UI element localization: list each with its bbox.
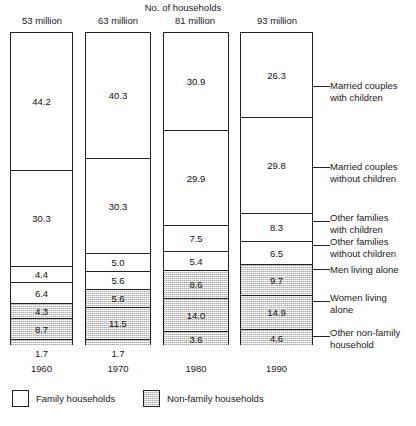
legend-swatch-icon-family	[12, 390, 29, 407]
legend-label-nonfamily: Non-family households	[167, 393, 264, 405]
segment-men-living-alone-1990: 9.7	[241, 265, 312, 296]
callout-line-married-without-children	[313, 167, 330, 168]
segment-value: 4.6	[270, 333, 283, 344]
segment-women-living-alone-1980: 14.0	[164, 299, 228, 332]
segment-value: 8.6	[189, 279, 202, 290]
segment-women-living-alone-1990: 14.9	[241, 296, 312, 330]
segment-married-with-children-1960: 44.2	[11, 33, 72, 171]
callout-label-married-without-children: Married couples without children	[330, 161, 398, 184]
segment-men-living-alone-1980: 8.6	[164, 271, 228, 299]
segment-value: 8.3	[270, 222, 283, 233]
segment-value: 6.5	[270, 248, 283, 259]
segment-value: 30.3	[109, 201, 128, 212]
callout-line-1: Other families	[330, 236, 396, 248]
callout-line-2: with children	[330, 92, 398, 104]
segment-value: 44.2	[32, 96, 51, 107]
legend-item-family-households: Family households	[12, 390, 115, 407]
segment-other-families-with-children-1990: 8.3	[241, 214, 312, 242]
callout-line-1: Married couples	[330, 161, 398, 173]
callout-line-2: household	[330, 339, 400, 351]
callout-line-1: Other families	[330, 212, 389, 224]
callout-label-other-nonfamily: Other non-family household	[330, 327, 400, 350]
segment-value: 14.9	[267, 307, 286, 318]
segment-other-families-with-children-1980: 7.5	[164, 226, 228, 252]
callout-label-men-living-alone: Men living alone	[330, 264, 399, 276]
callout-label-women-living-alone: Women living alone	[330, 292, 387, 315]
segment-other-families-with-children-1960: 4.4	[11, 267, 72, 283]
outside-value-label-1960: 1.7	[10, 348, 73, 360]
callout-line-other-families-without-children	[313, 245, 330, 246]
callout-line-other-families-with-children	[313, 221, 330, 222]
legend-label-family: Family households	[36, 393, 115, 405]
segment-other-families-without-children-1960: 6.4	[11, 283, 72, 304]
legend-swatch-icon-nonfamily	[143, 390, 160, 407]
segment-value: 11.5	[109, 318, 127, 329]
segment-other-families-without-children-1980: 5.4	[164, 252, 228, 271]
segment-other-nonfamily-1980: 3.6	[164, 332, 228, 346]
segment-other-nonfamily-1960	[11, 340, 72, 346]
callout-line-2: without children	[330, 173, 398, 185]
legend-item-nonfamily-households: Non-family households	[143, 390, 264, 407]
callout-line-2: without children	[330, 248, 396, 260]
segment-other-families-without-children-1970: 5.6	[86, 272, 150, 290]
household-composition-chart: No. of households 53 million 63 million …	[0, 0, 416, 426]
segment-other-families-without-children-1990: 6.5	[241, 242, 312, 265]
callout-line-men-living-alone	[313, 269, 330, 270]
callout-label-other-families-with-children: Other families with children	[330, 212, 389, 235]
segment-other-nonfamily-1970	[86, 340, 150, 346]
column-total-1980: 81 million	[161, 15, 229, 27]
segment-married-with-children-1970: 40.3	[86, 33, 150, 159]
segment-married-without-children-1970: 30.3	[86, 159, 150, 254]
callout-label-other-families-without-children: Other families without children	[330, 236, 396, 259]
axis-label-1990: 1990	[240, 363, 313, 375]
segment-women-living-alone-1960: 8.7	[11, 319, 72, 340]
segment-value: 5.4	[189, 256, 202, 267]
segment-value: 30.3	[32, 213, 51, 224]
segment-married-without-children-1960: 30.3	[11, 171, 72, 267]
segment-men-living-alone-1960: 4.3	[11, 304, 72, 319]
column-total-1960: 53 million	[8, 15, 76, 27]
stacked-bar-1990: 26.3 29.8 8.3 6.5 9.7 14.9 4.6	[240, 32, 313, 345]
segment-value: 4.4	[35, 269, 48, 280]
segment-married-without-children-1980: 29.9	[164, 131, 228, 226]
segment-married-with-children-1980: 30.9	[164, 33, 228, 131]
callout-line-married-with-children	[313, 86, 330, 87]
segment-value: 26.3	[267, 70, 286, 81]
callout-line-other-nonfamily	[313, 336, 330, 337]
stacked-bar-1980: 30.9 29.9 7.5 5.4 8.6 14.0 3.6	[163, 32, 229, 345]
segment-value: 5.6	[111, 293, 124, 304]
segment-value: 40.3	[109, 90, 128, 101]
segment-value: 29.8	[267, 160, 286, 171]
segment-value: 7.5	[189, 233, 202, 244]
callout-line-1: Other non-family	[330, 327, 400, 339]
segment-men-living-alone-1970: 5.6	[86, 290, 150, 308]
chart-title: No. of households	[118, 2, 248, 14]
segment-value: 4.3	[35, 306, 48, 317]
axis-label-1970: 1970	[85, 363, 151, 375]
segment-other-nonfamily-1990: 4.6	[241, 330, 312, 346]
segment-married-without-children-1990: 29.8	[241, 118, 312, 214]
segment-other-families-with-children-1970: 5.0	[86, 254, 150, 272]
segment-value: 5.6	[111, 275, 124, 286]
segment-value: 9.7	[270, 275, 283, 286]
stacked-bar-1970: 40.3 30.3 5.0 5.6 5.6 11.5	[85, 32, 151, 345]
callout-line-1: Men living alone	[330, 264, 399, 276]
segment-value: 5.0	[111, 257, 124, 268]
segment-married-with-children-1990: 26.3	[241, 33, 312, 118]
callout-line-2: with children	[330, 224, 389, 236]
segment-value: 8.7	[35, 324, 48, 335]
segment-women-living-alone-1970: 11.5	[86, 308, 150, 340]
callout-label-married-with-children: Married couples with children	[330, 80, 398, 103]
callout-line-women-living-alone	[313, 301, 330, 302]
column-total-1970: 63 million	[84, 15, 152, 27]
stacked-bar-1960: 44.2 30.3 4.4 6.4 4.3 8.7	[10, 32, 73, 345]
callout-line-1: Married couples	[330, 80, 398, 92]
column-total-1990: 93 million	[240, 15, 314, 27]
segment-value: 3.6	[189, 334, 202, 345]
segment-value: 14.0	[187, 310, 206, 321]
outside-value-label-1970: 1.7	[85, 348, 151, 360]
axis-label-1980: 1980	[163, 363, 229, 375]
segment-value: 29.9	[187, 173, 206, 184]
callout-line-2: alone	[330, 304, 387, 316]
axis-label-1960: 1960	[10, 363, 73, 375]
